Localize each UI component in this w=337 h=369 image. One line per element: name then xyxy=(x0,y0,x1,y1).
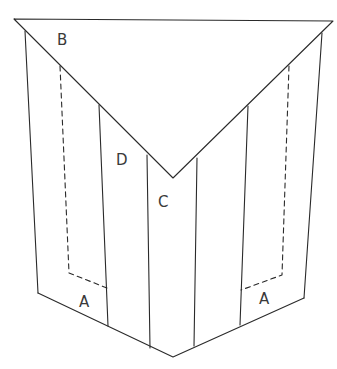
right-dashed-seam xyxy=(241,66,289,290)
right-outer-edge xyxy=(304,33,322,298)
left-fold-line xyxy=(99,105,108,326)
label-d: D xyxy=(116,151,128,169)
label-b: B xyxy=(57,31,67,49)
label-a-left: A xyxy=(79,293,90,311)
label-c: C xyxy=(158,193,168,211)
label-a-right: A xyxy=(259,290,270,308)
left-dashed-seam xyxy=(60,66,107,288)
left-outer-edge xyxy=(25,31,38,293)
center-left-fold-line xyxy=(147,155,150,348)
center-right-fold-line xyxy=(194,158,197,346)
right-fold-line xyxy=(240,106,248,325)
pocket-diagram: B D C A A xyxy=(0,0,337,369)
